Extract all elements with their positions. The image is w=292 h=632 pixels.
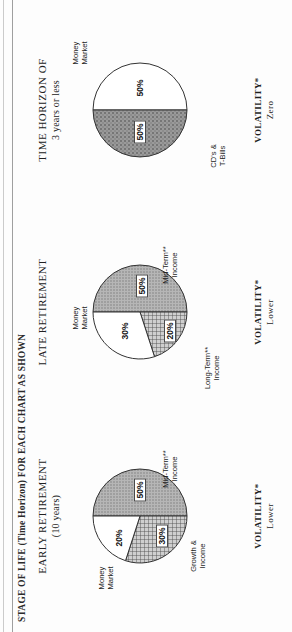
pie-value-cds-tbills: 50% [134, 120, 146, 143]
pie-label-mid-term: Mid-Term** Income [162, 450, 179, 488]
chart-column-time-horizon: TIME HORIZON OF 3 years or less 50% 50% … [34, 12, 286, 208]
pie-value-money-market: 30% [120, 322, 130, 339]
pie-svg [92, 62, 188, 158]
volatility-label: VOLATILITY* [252, 12, 264, 208]
page-rule-inner [12, 0, 13, 632]
page-rule-outer [3, 0, 4, 632]
chart-column-late-retirement: LATE RETIREMENT 50% 20% 30% [34, 214, 286, 410]
volatility-early-retirement: VOLATILITY* Lower [252, 418, 276, 614]
volatility-value: Zero [264, 12, 276, 208]
chart-title: TIME HORIZON OF [36, 58, 48, 161]
pie-value-long-term: 20% [164, 319, 176, 342]
pie-label-long-term: Long-Term** Income [204, 347, 221, 389]
volatility-value: Lower [264, 214, 276, 410]
page-title: STAGE OF LIFE (Time Horizon) FOR EACH CH… [17, 334, 27, 622]
pie-value-money-market: 20% [114, 529, 124, 546]
chart-heading: LATE RETIREMENT [36, 214, 49, 410]
page-sheet: STAGE OF LIFE (Time Horizon) FOR EACH CH… [0, 0, 292, 632]
pie-label-money-market: Money Market [72, 306, 89, 329]
pie-value-money-market: 50% [135, 79, 145, 96]
pie-label-cds-tbills: CD's & T-Bills [210, 144, 227, 167]
volatility-label: VOLATILITY* [252, 418, 264, 614]
chart-title: EARLY RETIREMENT [36, 458, 48, 574]
chart-column-early-retirement: EARLY RETIREMENT (10 years) [34, 418, 286, 614]
pie-label-money-market: Money Market [72, 41, 89, 64]
scanned-page: STAGE OF LIFE (Time Horizon) FOR EACH CH… [0, 0, 292, 632]
pie-label-mid-term: Mid-Term** Income [162, 246, 179, 284]
pie-label-money-market: Money Market [98, 566, 115, 589]
chart-subtitle: 3 years or less [49, 12, 62, 208]
charts-row: EARLY RETIREMENT (10 years) [34, 0, 286, 632]
chart-subtitle: (10 years) [49, 418, 62, 614]
chart-title: LATE RETIREMENT [36, 259, 48, 366]
volatility-late-retirement: VOLATILITY* Lower [252, 214, 276, 410]
volatility-time-horizon: VOLATILITY* Zero [252, 12, 276, 208]
pie-value-mid-term: 50% [134, 478, 146, 501]
volatility-label: VOLATILITY* [252, 214, 264, 410]
chart-heading: EARLY RETIREMENT (10 years) [36, 418, 62, 614]
pie-label-growth-income: Growth & Income [190, 540, 207, 572]
pie-value-growth-income: 30% [156, 524, 168, 547]
chart-heading: TIME HORIZON OF 3 years or less [36, 12, 62, 208]
pie-value-mid-term: 50% [136, 274, 148, 297]
volatility-value: Lower [264, 418, 276, 614]
pie-chart-time-horizon: 50% 50% [92, 62, 188, 158]
